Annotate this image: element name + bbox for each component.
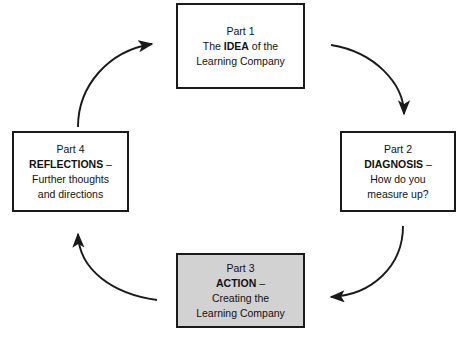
part4-line-3: Further thoughts: [32, 172, 109, 187]
part2-line-4: measure up?: [367, 187, 428, 202]
part-box-part3: Part 3 ACTION – Creating the Learning Co…: [176, 253, 305, 328]
part2-title-line: DIAGNOSIS –: [364, 157, 432, 172]
arrow-part2-to-part3: [331, 226, 403, 297]
part1-title-emphasis: IDEA: [224, 40, 249, 52]
part3-part-label: Part 3: [226, 261, 254, 276]
arrow-part3-to-part4: [78, 234, 157, 300]
part4-title-emphasis: REFLECTIONS: [29, 158, 103, 170]
part1-title-suffix: of the: [249, 40, 278, 52]
part4-part-label: Part 4: [56, 142, 84, 157]
part2-line-3: How do you: [370, 172, 425, 187]
part1-title-prefix: The: [203, 40, 224, 52]
cycle-diagram: Part 1 The IDEA of the Learning Company …: [0, 0, 468, 341]
part4-line-4: and directions: [38, 187, 103, 202]
arrow-part1-to-part2: [331, 45, 404, 114]
part1-line-3: Learning Company: [196, 54, 285, 69]
part1-part-label: Part 1: [226, 24, 254, 39]
part1-title-line: The IDEA of the: [203, 39, 278, 54]
part2-part-label: Part 2: [384, 142, 412, 157]
part3-line-3: Creating the: [212, 291, 269, 306]
part4-title-suffix: –: [103, 158, 112, 170]
part3-title-line: ACTION –: [216, 276, 265, 291]
part-box-part1: Part 1 The IDEA of the Learning Company: [176, 3, 305, 89]
part2-title-emphasis: DIAGNOSIS: [364, 158, 423, 170]
part3-title-emphasis: ACTION: [216, 277, 256, 289]
arrow-part4-to-part1: [78, 44, 152, 127]
part3-title-suffix: –: [256, 277, 265, 289]
part4-title-line: REFLECTIONS –: [29, 157, 112, 172]
part3-line-4: Learning Company: [196, 306, 285, 321]
part2-title-suffix: –: [423, 158, 432, 170]
part-box-part2: Part 2 DIAGNOSIS – How do you measure up…: [340, 131, 456, 212]
part-box-part4: Part 4 REFLECTIONS – Further thoughts an…: [12, 131, 129, 212]
